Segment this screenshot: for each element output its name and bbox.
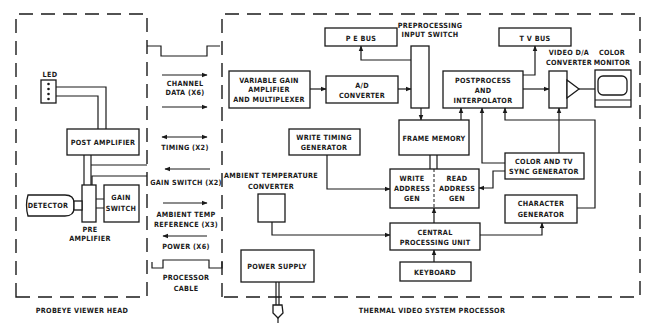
processor-title: THERMAL VIDEO SYSTEM PROCESSOR — [359, 306, 505, 315]
power-plug-icon — [273, 305, 283, 318]
processor-cable-label-line1: PROCESSOR — [163, 273, 210, 282]
cable-bottom-bracket — [152, 260, 222, 268]
char-gen-label-line2: GENERATOR — [518, 210, 565, 219]
preprocessing-switch-box — [411, 46, 429, 108]
cpu-to-char-wire — [480, 223, 542, 235]
video-da-label-line2: CONVERTER — [546, 58, 592, 67]
post-amplifier-label: POST AMPLIFIER — [71, 138, 136, 147]
gain-switch-signal-label: GAIN SWITCH (X2) — [150, 178, 222, 187]
memory-address-bus — [430, 155, 437, 169]
led-wire — [56, 96, 98, 129]
detector-connector — [74, 201, 82, 210]
color-monitor-label-line2: MONITOR — [594, 58, 631, 67]
postprocess-label-line3: INTERPOLATOR — [454, 96, 513, 105]
write-timing-wire — [327, 155, 390, 189]
timing-label: TIMING (X2) — [161, 143, 208, 152]
write-addr-label-line3: GEN — [404, 194, 420, 203]
vga-mux-label-line2: AMPLIFIER — [248, 85, 290, 94]
write-addr-label-line1: WRITE — [400, 174, 425, 183]
pre-amplifier-box — [82, 185, 96, 222]
read-addr-label-line1: READ — [447, 174, 468, 183]
gain-switch-label-line2: SWITCH — [106, 204, 137, 213]
color-monitor-label-line1: COLOR — [599, 48, 625, 57]
ambient-to-cpu-wire — [272, 222, 390, 235]
power-cord — [276, 282, 279, 305]
video-da-label-line1: VIDEO D/A — [549, 48, 589, 57]
ambient-converter-label-line2: CONVERTER — [248, 182, 294, 191]
vga-mux-label-line1: VARIABLE GAIN — [239, 76, 299, 85]
gain-switch-label-line1: GAIN — [111, 193, 130, 202]
led-dot — [47, 83, 50, 86]
preprocessing-label-line2: INPUT SWITCH — [402, 30, 459, 39]
pre-amplifier-label-line1: PRE — [82, 225, 97, 234]
sync-to-postprocess-wire — [482, 108, 505, 163]
channel-data-label-line1: CHANNEL — [167, 79, 204, 88]
color-monitor-icon — [595, 70, 631, 107]
video-da-box — [549, 71, 567, 108]
led-dot — [47, 88, 50, 91]
tv-bus-label: T V BUS — [520, 34, 551, 43]
led-dot — [47, 98, 50, 101]
pe-bus-label: P E BUS — [346, 34, 377, 43]
read-addr-label-line3: GEN — [449, 194, 465, 203]
processor-cable-group: CHANNEL DATA (X6) TIMING (X2) GAIN SWITC… — [147, 46, 222, 293]
led-label: LED — [43, 70, 58, 79]
keyboard-label: KEYBOARD — [414, 268, 456, 277]
viewer-head-group: PROBEYE VIEWER HEAD LED POST AMPLIFIER P… — [16, 14, 147, 315]
cpu-label-line1: CENTRAL — [417, 228, 452, 237]
pre-amplifier-label-line2: AMPLIFIER — [69, 234, 111, 243]
preprocessing-label-line1: PREPROCESSING — [398, 21, 463, 30]
postprocess-label-line2: AND — [475, 86, 492, 95]
write-timing-label-line1: WRITE TIMING — [296, 133, 352, 142]
viewer-head-title: PROBEYE VIEWER HEAD — [36, 306, 129, 315]
detector-label: DETECTOR — [28, 201, 69, 210]
ad-converter-label-line1: A/D — [355, 81, 369, 90]
ambient-converter-label-line1: AMBIENT TEMPERATURE — [224, 171, 318, 180]
video-amp-triangle-icon — [567, 80, 579, 98]
sync-to-read-addr-wire — [479, 171, 505, 188]
write-addr-label-line2: ADDRESS — [394, 184, 430, 193]
vga-mux-label-line3: AND MULTIPLEXER — [233, 95, 305, 104]
postprocess-label-line1: POSTPROCESS — [455, 76, 511, 85]
postprocess-to-tvbus-wire — [522, 46, 535, 75]
ambient-temp-label-line2: REFERENCE (X3) — [154, 220, 218, 229]
cpu-label-line2: PROCESSING UNIT — [400, 238, 471, 247]
cable-top-bracket — [147, 46, 220, 56]
char-gen-label-line1: CHARACTER — [518, 199, 564, 208]
processor-cable-label-line2: CABLE — [174, 284, 199, 293]
ambient-temp-label-line1: AMBIENT TEMP — [157, 210, 216, 219]
power-label: POWER (X6) — [162, 242, 209, 251]
processor-group: THERMAL VIDEO SYSTEM PROCESSOR P E BUS P… — [222, 14, 640, 323]
color-sync-label-line2: SYNC GENERATOR — [509, 167, 579, 176]
gain-switch-in-wire — [92, 176, 147, 185]
ad-converter-label-line2: CONVERTER — [339, 91, 385, 100]
channel-data-label-line2: DATA (X6) — [165, 88, 204, 97]
color-sync-label-line1: COLOR AND TV — [515, 157, 573, 166]
ambient-converter-box — [258, 194, 285, 222]
led-dot — [47, 93, 50, 96]
write-timing-label-line2: GENERATOR — [301, 143, 348, 152]
pe-bus-wire — [361, 46, 411, 60]
read-addr-label-line2: ADDRESS — [439, 184, 475, 193]
power-supply-label: POWER SUPPLY — [247, 262, 307, 271]
pre-to-gain-wire — [96, 199, 104, 208]
frame-memory-label: FRAME MEMORY — [402, 134, 465, 143]
block-diagram: PROBEYE VIEWER HEAD LED POST AMPLIFIER P… — [0, 0, 655, 330]
